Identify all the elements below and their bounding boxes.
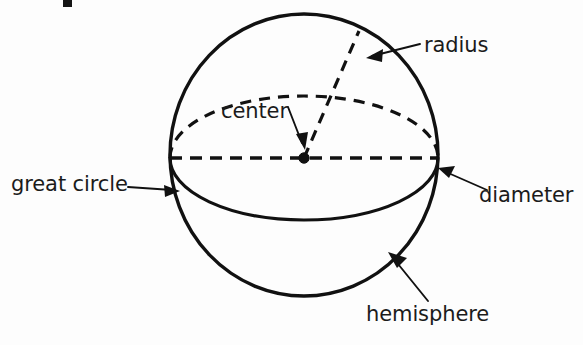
label-diameter: diameter [479,184,573,206]
radius-dashed-line [304,31,359,158]
center-point-dot [299,153,309,163]
diameter-leader-arrowhead [438,166,455,178]
label-hemisphere: hemisphere [366,303,489,325]
great-circle-back-arc [170,96,438,158]
figure-canvas: radius center great circle diameter hemi… [0,0,583,345]
radius-leader-arrowhead [366,49,383,62]
center-leader-arrowhead [296,132,308,150]
label-center: center [221,100,288,122]
label-radius: radius [424,34,488,56]
label-great-circle: great circle [11,173,128,195]
great-circle-front-arc [170,158,438,220]
